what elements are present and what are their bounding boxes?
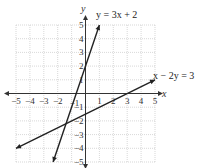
y-axis-label: y xyxy=(80,3,86,14)
line1-label: y = 3x + 2 xyxy=(96,9,137,20)
line2-label: x − 2y = 3 xyxy=(153,70,194,81)
svg-text:−3: −3 xyxy=(74,130,84,140)
svg-text:3: 3 xyxy=(125,96,130,106)
axes xyxy=(4,15,163,168)
svg-text:−4: −4 xyxy=(25,96,35,106)
svg-text:−2: −2 xyxy=(53,96,63,106)
svg-text:−5: −5 xyxy=(74,157,84,167)
x-axis-label: x xyxy=(161,88,167,99)
svg-text:5: 5 xyxy=(153,96,158,106)
svg-text:4: 4 xyxy=(139,96,144,106)
graph: −5−4−3−2−11234554321−1−2−3−4−5 x y y = 3… xyxy=(0,0,199,168)
svg-text:3: 3 xyxy=(79,47,84,57)
svg-text:−3: −3 xyxy=(39,96,49,106)
svg-text:2: 2 xyxy=(79,61,84,71)
svg-text:−5: −5 xyxy=(11,96,21,106)
svg-text:−4: −4 xyxy=(74,143,84,153)
svg-text:5: 5 xyxy=(79,20,84,30)
svg-text:4: 4 xyxy=(79,34,84,44)
svg-text:1: 1 xyxy=(97,96,102,106)
svg-text:−1: −1 xyxy=(74,102,84,112)
